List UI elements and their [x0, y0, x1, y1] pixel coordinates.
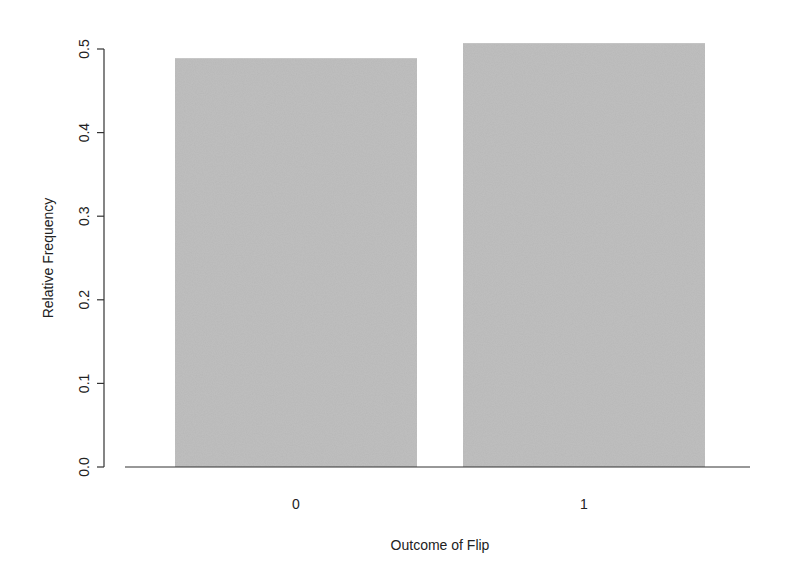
y-tick-label: 0.4: [76, 123, 92, 143]
y-axis: 0.00.10.20.30.40.5: [76, 39, 104, 477]
y-tick-label: 0.1: [76, 373, 92, 393]
y-tick-label: 0.2: [76, 290, 92, 310]
x-axis-labels: 01: [292, 496, 588, 512]
y-tick-label: 0.0: [76, 457, 92, 477]
y-tick-label: 0.5: [76, 39, 92, 59]
bar-1: [463, 43, 705, 467]
x-axis-title: Outcome of Flip: [391, 537, 490, 553]
x-tick-label: 0: [292, 496, 300, 512]
y-axis-title: Relative Frequency: [40, 198, 56, 319]
x-tick-label: 1: [580, 496, 588, 512]
bars-group: [175, 43, 705, 467]
y-tick-label: 0.3: [76, 206, 92, 226]
bar-0: [175, 58, 417, 467]
bar-chart: 0.00.10.20.30.40.5 01 Outcome of Flip Re…: [0, 0, 791, 584]
